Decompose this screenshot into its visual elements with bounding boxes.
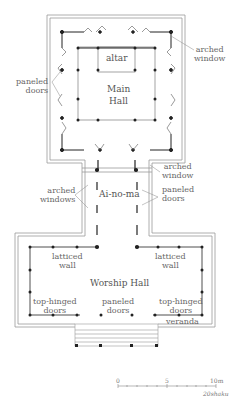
ai-no-ma-label: Ai-no-ma: [99, 189, 140, 200]
step-posts: [75, 344, 158, 347]
corridor-posts: [96, 160, 139, 249]
label-line: doors: [102, 306, 134, 315]
paneled-doors-label-top: paneled doors: [16, 77, 48, 95]
scale-shaku: 20shaku: [203, 390, 229, 397]
label-line: latticed: [52, 252, 83, 261]
scale-tick-0: 0: [116, 377, 120, 384]
scale-tick-10: 10m: [210, 377, 223, 384]
label-line: window: [162, 171, 193, 180]
label-line: paneled: [102, 297, 134, 306]
altar-label: altar: [106, 53, 128, 64]
veranda-label: veranda: [166, 317, 199, 326]
label-line: wall: [155, 261, 186, 270]
label-line: paneled: [16, 77, 48, 86]
label-line: doors: [33, 306, 77, 315]
scale-tick-5: 5: [165, 377, 169, 384]
paneled-doors-label-mid: paneled doors: [162, 185, 194, 203]
label-line: top-hinged: [159, 297, 203, 306]
label-line: arched: [194, 45, 225, 54]
label-line: arched: [162, 162, 193, 171]
front-steps: [75, 324, 158, 346]
latticed-wall-label-right: latticed wall: [155, 252, 186, 270]
paneled-doors-label-bottom: paneled doors: [102, 297, 134, 315]
label-line: arched: [40, 186, 75, 195]
label-line: windows: [40, 195, 75, 204]
worship-hall-label: Worship Hall: [90, 278, 149, 289]
label-line: top-hinged: [33, 297, 77, 306]
latticed-wall-label-left: latticed wall: [52, 252, 83, 270]
label-line: doors: [162, 194, 194, 203]
main-hall-label-1: Main: [107, 84, 130, 95]
arched-window-label-top: arched window: [194, 45, 225, 63]
scale-bar: [118, 384, 216, 388]
label-line: wall: [52, 261, 83, 270]
label-line: latticed: [155, 252, 186, 261]
top-hinged-doors-label-left: top-hinged doors: [33, 297, 77, 315]
main-hall-label-2: Hall: [109, 96, 128, 107]
label-line: window: [194, 54, 225, 63]
arched-windows-label-left: arched windows: [40, 186, 75, 204]
label-line: paneled: [162, 185, 194, 194]
label-line: doors: [16, 86, 48, 95]
arched-window-label-mid: arched window: [162, 162, 193, 180]
top-hinged-doors-label-right: top-hinged doors: [159, 297, 203, 315]
label-line: doors: [159, 306, 203, 315]
